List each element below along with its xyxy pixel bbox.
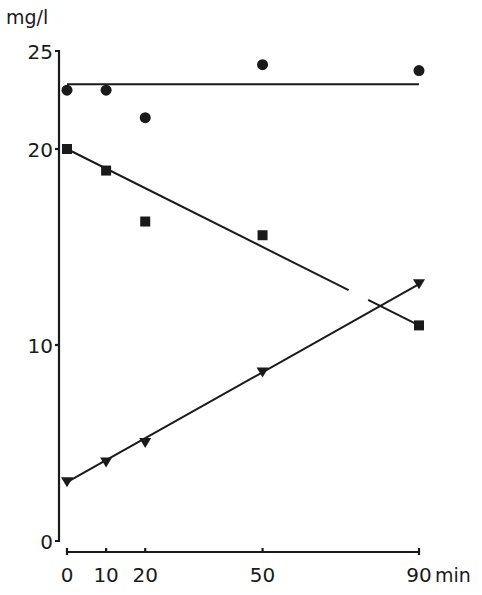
x-tick-label: 0 (61, 563, 74, 587)
square-marker (414, 320, 424, 330)
x-tick-label: 50 (250, 563, 275, 587)
square-marker (62, 144, 72, 154)
data-points (61, 59, 425, 487)
x-axis-unit: min (435, 564, 471, 586)
chart-canvas: 0102025mg/l010205090min (0, 0, 482, 595)
x-tick-label: 90 (406, 563, 431, 587)
x-axis-line (67, 552, 419, 555)
square-marker (140, 217, 150, 227)
axes (55, 51, 419, 555)
x-tick-label: 10 (93, 563, 118, 587)
triangle-marker (61, 477, 73, 487)
y-axis-line (55, 51, 59, 541)
y-tick-label: 25 (28, 40, 53, 64)
circle-marker (140, 112, 151, 123)
circle-marker (101, 85, 112, 96)
fit-lines (67, 84, 419, 482)
circle-marker (414, 65, 425, 76)
circle-marker (257, 59, 268, 70)
x-tick-label: 20 (132, 563, 157, 587)
y-axis-unit: mg/l (6, 6, 48, 28)
y-tick-label: 20 (28, 138, 53, 162)
triangle-marker (139, 438, 151, 448)
fit-line-triangles (67, 284, 419, 482)
axis-labels: 0102025mg/l010205090min (6, 6, 471, 587)
circle-marker (62, 85, 73, 96)
y-tick-label: 10 (28, 334, 53, 358)
square-marker (101, 166, 111, 176)
y-tick-label: 0 (40, 530, 53, 554)
square-marker (258, 230, 268, 240)
triangle-marker (257, 367, 269, 377)
fit-line-squares (368, 300, 419, 325)
